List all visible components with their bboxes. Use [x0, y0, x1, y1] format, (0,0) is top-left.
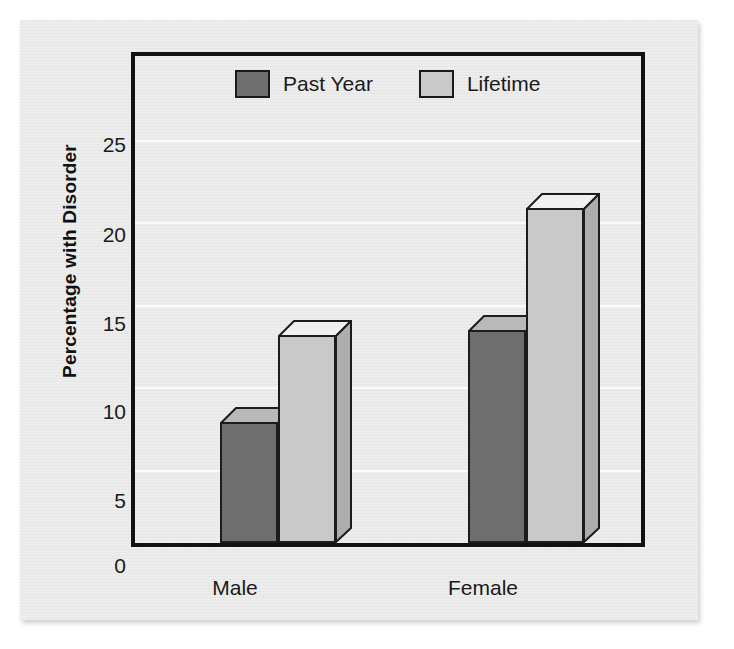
x-tick-label-female: Female	[393, 576, 573, 600]
bar-male-lifetime	[278, 335, 336, 543]
bar-front-face	[278, 335, 336, 543]
legend-label: Lifetime	[467, 72, 541, 96]
legend-swatch-past-year	[235, 70, 270, 98]
y-tick-label: 15	[80, 313, 126, 334]
bar-male-past-year	[220, 422, 278, 543]
bar-front-face	[468, 330, 526, 543]
y-tick-label: 5	[80, 490, 126, 511]
y-axis-tick-labels: 25 20 15 10 5 0	[60, 52, 126, 543]
bar-side-face	[335, 321, 352, 543]
legend-entry-lifetime: Lifetime	[419, 70, 541, 98]
plot-area	[135, 56, 641, 543]
gridline-25	[135, 140, 641, 142]
bar-front-face	[220, 422, 278, 543]
legend-label: Past Year	[283, 72, 373, 96]
bar-side-face	[583, 194, 600, 543]
chart-legend: Past Year Lifetime	[235, 70, 540, 98]
x-tick-label-male: Male	[145, 576, 325, 600]
figure-card: Percentage with Disorder 25 20 15 10 5 0	[20, 20, 698, 620]
y-tick-label: 20	[80, 224, 126, 245]
y-tick-label: 0	[80, 555, 126, 576]
y-tick-label: 25	[80, 134, 126, 155]
bar-front-face	[526, 208, 584, 543]
bar-female-lifetime	[526, 208, 584, 543]
legend-swatch-lifetime	[419, 70, 454, 98]
legend-entry-past-year: Past Year	[235, 70, 373, 98]
bar-female-past-year	[468, 330, 526, 543]
y-tick-label: 10	[80, 401, 126, 422]
plot-frame	[131, 52, 645, 547]
